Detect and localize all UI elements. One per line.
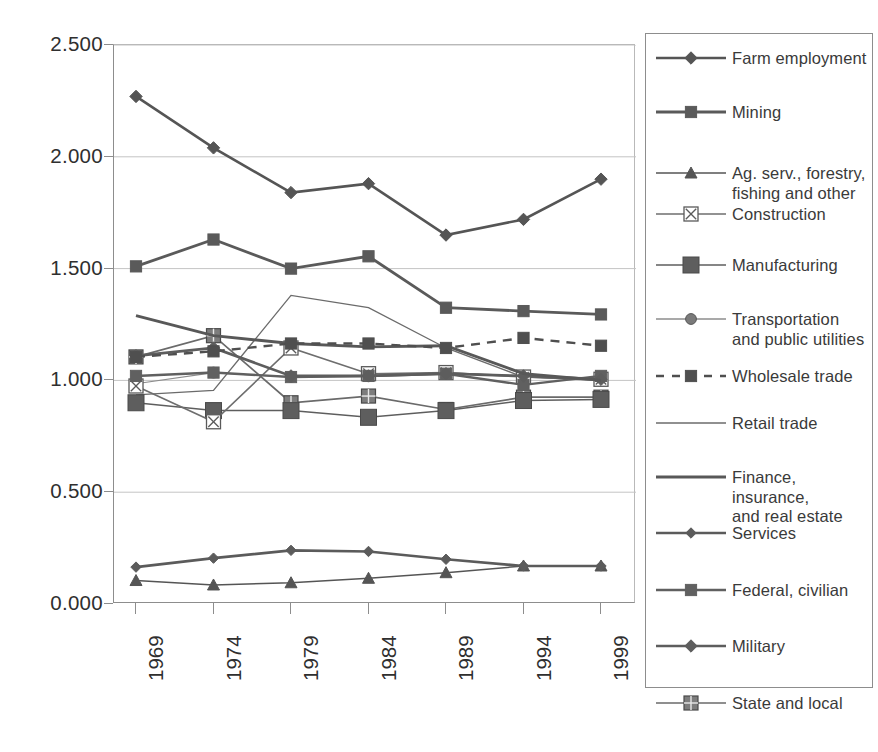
- data-point-marker: [363, 338, 374, 349]
- data-point-marker: [361, 409, 377, 425]
- x-axis-tick-mark: [135, 603, 136, 614]
- legend-item[interactable]: Farm employment: [646, 48, 874, 69]
- y-axis-tick-mark: [104, 44, 113, 45]
- data-point-marker: [686, 528, 696, 538]
- legend-item-label: Finance, insurance, and real estate: [732, 467, 874, 527]
- y-axis-tick-mark: [104, 603, 113, 604]
- x-axis-tick-label: 1979: [299, 635, 323, 681]
- x-axis-tick-mark: [445, 603, 446, 614]
- data-point-marker: [208, 367, 219, 378]
- y-axis-tick-mark: [104, 491, 113, 492]
- chart-screenshot: 0.0000.5001.0001.5002.0002.500 Farm empl…: [0, 0, 878, 752]
- y-axis-tick-label: 2.500: [50, 32, 103, 56]
- legend-item[interactable]: Wholesale trade: [646, 366, 874, 387]
- legend-item[interactable]: Transportation and public utilities: [646, 309, 874, 349]
- data-point-marker: [128, 395, 144, 411]
- y-axis-tick-mark: [104, 379, 113, 380]
- series-wholesale-trade: [130, 332, 606, 362]
- x-axis-tick-label: 1974: [222, 635, 246, 681]
- legend-item-label: Transportation and public utilities: [732, 309, 864, 349]
- legend-item-label: Farm employment: [732, 48, 866, 69]
- data-point-marker: [130, 370, 141, 381]
- x-axis-tick-label: 1999: [609, 635, 633, 681]
- legend-swatch-square-large-icon: [654, 255, 732, 275]
- legend-item[interactable]: State and local: [646, 693, 874, 714]
- data-point-marker: [286, 545, 296, 555]
- data-point-marker: [208, 234, 219, 245]
- legend-item-label: Services: [732, 523, 796, 544]
- legend-swatch-triangle-icon: [654, 163, 732, 183]
- legend-swatch-none-icon: [654, 467, 732, 487]
- x-axis-tick-mark: [368, 603, 369, 614]
- legend-swatch-none-icon: [654, 413, 732, 433]
- y-axis-tick-label: 1.000: [50, 367, 103, 391]
- data-point-marker: [685, 106, 696, 117]
- x-axis-tick-label: 1984: [377, 635, 401, 681]
- series-ag-serv-forestry-fishing-and-other: [130, 560, 607, 590]
- legend-item[interactable]: Services: [646, 523, 874, 544]
- x-axis-tick-label: 1994: [532, 635, 556, 681]
- data-point-marker: [208, 346, 219, 357]
- y-axis-tick-mark: [104, 268, 113, 269]
- y-axis-tick-label: 0.500: [50, 479, 103, 503]
- data-point-marker: [685, 370, 696, 381]
- data-point-marker: [685, 52, 697, 64]
- legend-item-label: State and local: [732, 693, 843, 714]
- x-axis-tick-label: 1989: [454, 635, 478, 681]
- data-point-marker: [285, 263, 296, 274]
- legend-item[interactable]: Federal, civilian: [646, 580, 874, 601]
- y-axis-tick-label: 2.000: [50, 144, 103, 168]
- data-point-marker: [683, 257, 699, 273]
- legend-swatch-square-icon: [654, 102, 732, 122]
- series-farm-employment: [130, 90, 607, 241]
- x-axis-tick-mark: [213, 603, 214, 614]
- data-point-marker: [440, 302, 451, 313]
- legend-item[interactable]: Construction: [646, 204, 874, 225]
- data-point-marker: [283, 403, 299, 419]
- legend-swatch-diamond-icon: [654, 636, 732, 656]
- data-point-marker: [593, 391, 609, 407]
- data-point-marker: [440, 342, 451, 353]
- data-point-marker: [130, 351, 141, 362]
- legend-item[interactable]: Finance, insurance, and real estate: [646, 467, 874, 527]
- data-point-marker: [131, 562, 141, 572]
- x-axis-tick-mark: [290, 603, 291, 614]
- data-point-marker: [516, 393, 532, 409]
- y-axis-tick-mark: [104, 156, 113, 157]
- data-point-marker: [363, 546, 373, 556]
- data-point-marker: [285, 338, 296, 349]
- legend-item-label: Wholesale trade: [732, 366, 853, 387]
- legend-item-label: Mining: [732, 102, 781, 123]
- y-axis-tick-label: 1.500: [50, 256, 103, 280]
- data-point-marker: [685, 584, 696, 595]
- x-axis-tick-mark: [600, 603, 601, 614]
- data-point-marker: [517, 213, 529, 225]
- legend-item-label: Military: [732, 636, 785, 657]
- legend-swatch-circle-icon: [654, 309, 732, 329]
- legend-item-label: Ag. serv., forestry, fishing and other: [732, 163, 865, 203]
- x-axis-tick-label: 1969: [144, 635, 168, 681]
- legend-swatch-square-icon: [654, 580, 732, 600]
- legend-item-label: Manufacturing: [732, 255, 838, 276]
- legend-item[interactable]: Military: [646, 636, 874, 657]
- data-point-marker: [130, 261, 141, 272]
- legend-swatch-square-grid-icon: [654, 693, 732, 713]
- series-line: [136, 96, 601, 235]
- data-point-marker: [208, 553, 218, 563]
- legend-item[interactable]: Mining: [646, 102, 874, 123]
- data-point-marker: [285, 186, 297, 198]
- legend-swatch-square-x-icon: [654, 204, 732, 224]
- data-point-marker: [518, 305, 529, 316]
- legend-swatch-square-icon: [654, 366, 732, 386]
- legend-item-label: Federal, civilian: [732, 580, 848, 601]
- data-point-marker: [595, 173, 607, 185]
- legend-swatch-diamond-icon: [654, 48, 732, 68]
- data-point-marker: [363, 251, 374, 262]
- plot-series-canvas: [114, 45, 636, 604]
- legend-item[interactable]: Ag. serv., forestry, fishing and other: [646, 163, 874, 203]
- legend-swatch-diamond-small-icon: [654, 523, 732, 543]
- y-axis-tick-label: 0.000: [50, 591, 103, 615]
- legend-item-label: Retail trade: [732, 413, 818, 434]
- legend-item[interactable]: Manufacturing: [646, 255, 874, 276]
- legend-item[interactable]: Retail trade: [646, 413, 874, 434]
